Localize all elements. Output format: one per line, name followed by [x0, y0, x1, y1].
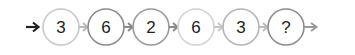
node-value: 6	[101, 18, 110, 37]
sequence-node-4: 6	[178, 9, 214, 45]
connector-arrow-icon	[124, 23, 133, 31]
connector-arrow-icon	[214, 23, 223, 31]
node-value: 3	[56, 18, 65, 37]
node-value: 2	[146, 18, 155, 37]
connector-arrow-icon	[259, 23, 268, 31]
node-value: 6	[191, 18, 200, 37]
node-value: 3	[236, 18, 245, 37]
sequence-diagram: 3 6 2 6 3 ?	[0, 0, 355, 55]
end-arrow-icon	[304, 23, 317, 31]
node-value: ?	[281, 18, 290, 37]
sequence-node-6: ?	[268, 9, 304, 45]
sequence-node-5: 3	[223, 9, 259, 45]
connector-arrow-icon	[169, 23, 178, 31]
connector-arrow-icon	[79, 23, 88, 31]
sequence-node-3: 2	[133, 9, 169, 45]
sequence-node-2: 6	[88, 9, 124, 45]
sequence-node-1: 3	[43, 9, 79, 45]
start-arrow-icon	[26, 23, 39, 32]
